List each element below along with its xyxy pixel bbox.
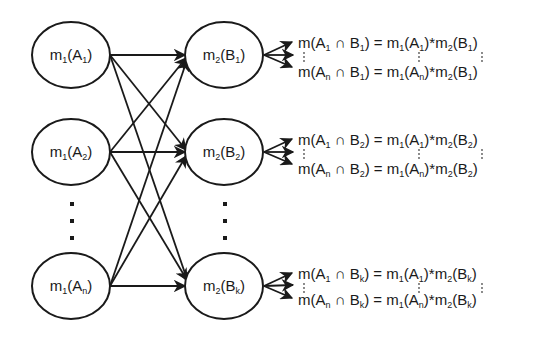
diagram-canvas: m1(A1) m1(A2) m1(An) m2(B1) m2(B2) m2(Bk… <box>0 0 553 338</box>
fan-Bk-mid <box>264 285 293 286</box>
edge-A1-B2 <box>110 55 186 150</box>
edge-A2-B1 <box>110 58 186 152</box>
formula-vertical-ellipsis <box>303 149 483 159</box>
right-node-Bk: m2(Bk) <box>185 253 263 319</box>
formula-last: m(An ∩ B2) = m1(An)*m2(B2) <box>298 160 478 179</box>
formula-last: m(An ∩ Bk) = m1(An)*m2(Bk) <box>298 291 477 310</box>
right-ellipsis-dots <box>223 202 227 240</box>
edges <box>110 55 188 286</box>
fan-arrows <box>264 42 293 298</box>
fan-B1-first <box>264 42 292 55</box>
left-node-An: m1(An) <box>32 253 110 319</box>
left-node-A2: m1(A2) <box>32 119 110 185</box>
fan-B2-last <box>264 152 292 164</box>
formula-group-B1: m(A1 ∩ B1) = m1(A1)*m2(B1) m(An ∩ B1) = … <box>298 34 483 82</box>
fan-B2-first <box>264 139 292 152</box>
fan-Bk-first <box>264 273 292 286</box>
formula-first: m(A1 ∩ B1) = m1(A1)*m2(B1) <box>298 34 478 53</box>
right-node-B2: m2(B2) <box>185 119 263 185</box>
fan-B1-last <box>264 55 292 67</box>
left-ellipsis-dots <box>70 202 74 240</box>
formula-vertical-ellipsis <box>303 52 483 62</box>
formula-group-B2: m(A1 ∩ B2) = m1(A1)*m2(B2) m(An ∩ B2) = … <box>298 131 483 179</box>
fan-Bk-last <box>264 286 292 298</box>
formula-last: m(An ∩ B1) = m1(An)*m2(B1) <box>298 63 478 82</box>
right-node-B1: m2(B1) <box>185 22 263 88</box>
formula-first: m(A1 ∩ B2) = m1(A1)*m2(B2) <box>298 131 478 150</box>
left-node-A1: m1(A1) <box>32 22 110 88</box>
formula-group-Bk: m(A1 ∩ Bk) = m1(A1)*m2(Bk) m(An ∩ Bk) = … <box>298 265 483 310</box>
formula-first: m(A1 ∩ Bk) = m1(A1)*m2(Bk) <box>298 265 477 284</box>
